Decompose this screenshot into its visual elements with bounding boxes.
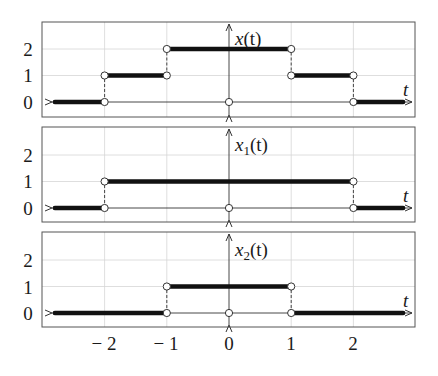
plot-canvas: 2 1 0 2 1 0 2 1 0 − 2 − 1 0 1 2 x(t) x1(…	[0, 0, 438, 376]
x-tick-0: 0	[224, 333, 234, 354]
y-tick-1: 1	[23, 65, 33, 86]
open-point-marker	[288, 283, 295, 290]
open-point-marker	[101, 98, 108, 105]
function-label-x: x(t)	[234, 28, 261, 50]
open-point-marker	[350, 72, 357, 79]
open-point-marker	[288, 45, 295, 52]
function-label-x2: x2(t)	[234, 239, 268, 263]
open-point-marker	[163, 283, 170, 290]
function-label-x1: x1(t)	[234, 134, 268, 158]
y-tick-2: 2	[23, 250, 33, 271]
open-point-marker	[101, 178, 108, 185]
y-tick-2: 2	[23, 145, 33, 166]
y-tick-0: 0	[23, 92, 33, 113]
open-point-marker	[288, 72, 295, 79]
open-point-marker	[288, 309, 295, 316]
open-point-marker	[101, 72, 108, 79]
panel-1	[42, 22, 415, 117]
y-tick-0: 0	[23, 198, 33, 219]
open-point-marker	[350, 204, 357, 211]
x-tick-neg1: − 1	[154, 333, 179, 354]
y-tick-2: 2	[23, 39, 33, 60]
y-tick-0: 0	[23, 303, 33, 324]
open-point-marker	[225, 204, 232, 211]
open-point-marker	[163, 72, 170, 79]
panel-2	[42, 127, 415, 222]
open-point-marker	[163, 309, 170, 316]
y-tick-1: 1	[23, 277, 33, 298]
panel-3	[42, 232, 415, 327]
signal-step-plots: 2 1 0 2 1 0 2 1 0 − 2 − 1 0 1 2 x(t) x1(…	[0, 0, 438, 376]
open-point-marker	[225, 309, 232, 316]
y-tick-1: 1	[23, 171, 33, 192]
t-axis-label: t	[403, 79, 409, 100]
t-axis-label: t	[403, 185, 409, 206]
x-tick-2: 2	[348, 333, 358, 354]
open-point-marker	[225, 98, 232, 105]
open-point-marker	[350, 178, 357, 185]
t-axis-label: t	[403, 290, 409, 311]
open-point-marker	[163, 45, 170, 52]
x-tick-1: 1	[286, 333, 296, 354]
y-tick-labels-panel-2: 2 1 0	[23, 145, 33, 219]
x-tick-neg2: − 2	[92, 333, 117, 354]
y-tick-labels-panel-3: 2 1 0	[23, 250, 33, 324]
open-point-marker	[101, 204, 108, 211]
x-tick-labels: − 2 − 1 0 1 2	[92, 333, 358, 354]
open-point-marker	[350, 98, 357, 105]
y-tick-labels-panel-1: 2 1 0	[23, 39, 33, 113]
